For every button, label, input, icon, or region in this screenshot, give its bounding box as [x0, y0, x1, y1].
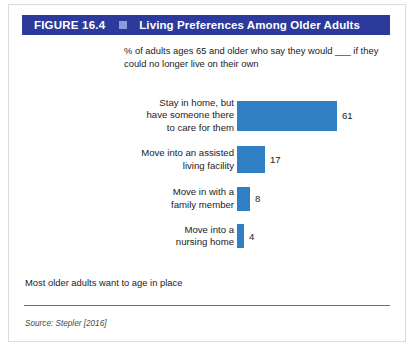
footer-divider	[24, 305, 390, 306]
source-note: Source: Stepler [2016]	[25, 319, 106, 328]
bar-value-label: 61	[342, 110, 353, 121]
figure-number-label: FIGURE 16.4	[34, 19, 105, 31]
bar-track: 8	[237, 187, 390, 211]
figure-container: FIGURE 16.4 Living Preferences Among Old…	[0, 0, 414, 346]
chart-caption: Most older adults want to age in place	[25, 277, 182, 288]
bar-segment	[237, 146, 265, 173]
bar-value-label: 17	[270, 154, 281, 165]
bar-segment	[237, 224, 244, 248]
bar-segment	[237, 187, 250, 211]
bar-category-label: Stay in home, but have someone there to …	[22, 97, 237, 134]
bar-row: Stay in home, but have someone there to …	[22, 97, 390, 134]
bar-track: 61	[237, 101, 390, 131]
bar-category-label: Move in with a family member	[22, 186, 237, 211]
bar-chart: Stay in home, but have someone there to …	[22, 97, 390, 249]
bar-value-label: 4	[249, 231, 254, 242]
figure-header-bar: FIGURE 16.4 Living Preferences Among Old…	[22, 15, 390, 35]
bar-row: Move into a nursing home 4	[22, 224, 390, 249]
bar-segment	[237, 101, 337, 131]
chart-subtitle: % of adults ages 65 and older who say th…	[124, 44, 392, 70]
bar-value-label: 8	[255, 193, 260, 204]
square-marker-icon	[119, 21, 127, 29]
bar-track: 17	[237, 146, 390, 173]
bar-track: 4	[237, 224, 390, 248]
bar-category-label: Move into an assisted living facility	[22, 147, 237, 172]
bar-category-label: Move into a nursing home	[22, 224, 237, 249]
bar-row: Move into an assisted living facility 17	[22, 146, 390, 173]
bar-row: Move in with a family member 8	[22, 186, 390, 211]
figure-title: Living Preferences Among Older Adults	[139, 19, 360, 31]
